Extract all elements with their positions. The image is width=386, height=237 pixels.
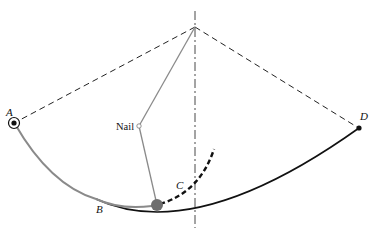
nail-icon [137, 124, 141, 128]
point-d-marker [356, 125, 361, 130]
string-lower [139, 126, 157, 205]
label-a: A [5, 106, 13, 118]
dashed-arc-around-nail [160, 149, 214, 204]
dashed-line-pivot-to-d [195, 27, 357, 127]
label-c: C [176, 179, 184, 191]
label-d: D [359, 110, 368, 122]
pendulum-diagram: A B C D Nail [0, 0, 386, 237]
label-b: B [96, 203, 103, 215]
pendulum-bob [151, 199, 163, 211]
point-a-marker [11, 120, 16, 125]
swing-path-a-to-b [15, 124, 96, 199]
label-nail: Nail [116, 121, 134, 132]
full-swing-arc [96, 128, 359, 212]
swing-path-b-to-bob [96, 199, 152, 207]
